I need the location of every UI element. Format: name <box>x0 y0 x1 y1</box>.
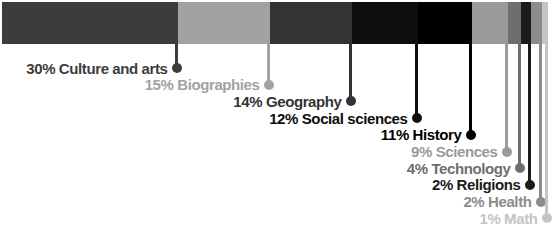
pin-line-technology <box>518 44 521 168</box>
pin-label-technology: 4% Technology <box>407 160 511 177</box>
pin-line-biographies <box>267 44 270 85</box>
pin-dot-geography <box>346 96 356 106</box>
pin-dot-culture-and-arts <box>172 63 182 73</box>
bar-segment-history <box>418 2 472 44</box>
pin-label-health: 2% Health <box>463 193 531 210</box>
pin-line-history <box>469 44 472 135</box>
pin-label-religions: 2% Religions <box>432 176 521 193</box>
pin-line-religions <box>528 44 531 185</box>
pin-label-culture-and-arts: 30% Culture and arts <box>26 60 167 77</box>
bar-segment-sciences <box>472 2 508 44</box>
bar-segment-religions <box>521 2 531 44</box>
pin-line-math <box>545 44 548 218</box>
bar-segment-culture-and-arts <box>2 2 178 44</box>
bar-segment-math <box>542 2 548 44</box>
bar-segment-geography <box>270 2 352 44</box>
pin-dot-religions <box>525 180 535 190</box>
pin-label-geography: 14% Geography <box>233 93 341 110</box>
pin-dot-technology <box>515 163 525 173</box>
pin-label-math: 1% Math <box>479 210 537 227</box>
pin-dot-social-sciences <box>412 113 422 123</box>
pin-label-history: 11% History <box>381 126 462 143</box>
pin-line-health <box>539 44 542 202</box>
pin-line-sciences <box>505 44 508 152</box>
pin-dot-math <box>542 213 552 223</box>
pin-label-sciences: 9% Sciences <box>411 143 498 160</box>
bar-segment-health <box>531 2 542 44</box>
pin-label-social-sciences: 12% Social sciences <box>269 110 407 127</box>
topic-share-pin-chart: 30% Culture and arts15% Biographies14% G… <box>0 0 553 230</box>
bar-segment-social-sciences <box>352 2 418 44</box>
pin-label-biographies: 15% Biographies <box>145 76 260 93</box>
pin-dot-history <box>466 130 476 140</box>
pin-dot-health <box>536 197 546 207</box>
bar-segment-biographies <box>178 2 270 44</box>
bar-segment-technology <box>508 2 521 44</box>
pin-dot-sciences <box>502 147 512 157</box>
pin-line-geography <box>349 44 352 101</box>
pin-dot-biographies <box>264 80 274 90</box>
pin-line-social-sciences <box>415 44 418 118</box>
